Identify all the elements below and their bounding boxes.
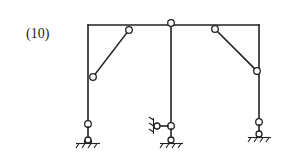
center-support bbox=[149, 117, 183, 148]
hinge-icon bbox=[254, 68, 261, 75]
hinge-icon bbox=[126, 27, 133, 34]
left-support bbox=[76, 121, 100, 148]
hinge-icon bbox=[212, 26, 219, 33]
hinge-icon bbox=[168, 137, 174, 143]
hinge-icon bbox=[168, 20, 175, 27]
hinge-icon bbox=[85, 137, 91, 143]
hinge-icon bbox=[154, 123, 160, 129]
frame-diagram bbox=[0, 0, 281, 157]
right-brace bbox=[215, 29, 257, 71]
hinge-icon bbox=[90, 74, 97, 81]
hinge-icon bbox=[256, 131, 262, 137]
left-brace bbox=[93, 30, 129, 77]
right-support bbox=[248, 119, 271, 142]
